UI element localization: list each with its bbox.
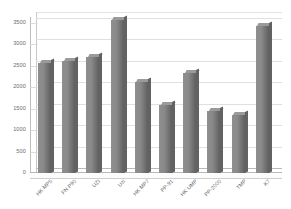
x-tick-label: FN P90	[60, 178, 77, 195]
bar[interactable]	[232, 115, 245, 173]
bar-side-face	[245, 111, 248, 173]
bar[interactable]	[111, 20, 124, 173]
y-tick-label: 0	[23, 169, 26, 175]
bar[interactable]	[256, 26, 269, 173]
bar-slot	[256, 26, 278, 173]
y-tick-label: 1000	[13, 126, 26, 132]
bar[interactable]	[62, 61, 75, 173]
y-tick-label: 3500	[13, 19, 26, 25]
bar-slot	[86, 57, 108, 173]
y-tick-label: 2000	[13, 83, 26, 89]
plot-area: 0500100015002000250030003500	[30, 8, 282, 178]
bar[interactable]	[159, 105, 172, 173]
bar-side-face	[172, 100, 175, 173]
bar-side-face	[148, 78, 151, 173]
bar-chart: 0500100015002000250030003500 HK MP5FN P9…	[0, 0, 291, 209]
bar-slot	[232, 115, 254, 173]
bar-slot	[135, 82, 157, 173]
x-tick-label: Uzi	[116, 178, 126, 188]
bar-slot	[207, 111, 229, 173]
bar-side-face	[75, 56, 78, 173]
bar-slot	[183, 73, 205, 173]
x-tick-label: HK UMP	[179, 178, 198, 197]
x-tick-label: TMP	[234, 178, 246, 190]
bar-side-face	[51, 59, 54, 173]
bar-slot	[159, 105, 181, 173]
bar-slot	[62, 61, 84, 173]
bar-side-face	[196, 68, 199, 173]
y-tick-label: 3000	[13, 40, 26, 46]
bar-slot	[111, 20, 133, 173]
bar[interactable]	[86, 57, 99, 173]
x-axis-tick-labels: HK MP5FN P90UZIUziHK MP7PP-91HK UMPPP-20…	[30, 178, 282, 209]
bar[interactable]	[207, 111, 220, 173]
bar[interactable]	[38, 63, 51, 173]
bar-side-face	[124, 15, 127, 173]
y-tick-label: 2500	[13, 62, 26, 68]
x-tick-label: HK MP7	[131, 178, 150, 197]
bar-series	[30, 8, 282, 179]
x-tick-label: HK MP5	[35, 178, 54, 197]
bar-side-face	[269, 21, 272, 173]
y-tick-label: 500	[16, 148, 26, 154]
x-tick-label: PP-2000	[203, 178, 222, 197]
y-tick-label: 1500	[13, 105, 26, 111]
x-tick-label: UZI	[91, 178, 101, 188]
x-tick-label: K7	[262, 178, 271, 187]
bar-side-face	[99, 52, 102, 173]
bar-side-face	[220, 107, 223, 173]
bar-slot	[38, 63, 60, 173]
x-tick-label: PP-91	[159, 178, 174, 193]
bar[interactable]	[183, 73, 196, 173]
bar[interactable]	[135, 82, 148, 173]
